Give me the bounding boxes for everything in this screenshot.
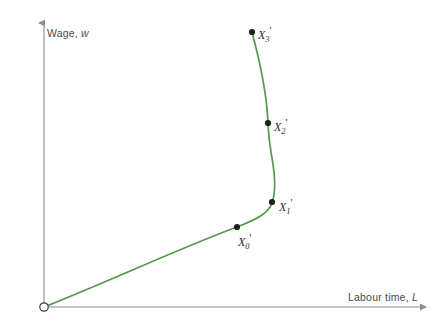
origin-marker [40,303,48,311]
point-label-x3-prime: ' [270,24,272,36]
data-point-x0 [234,224,240,230]
point-label-x2: X2' [274,116,288,136]
point-label-x0-prime: ' [250,231,252,243]
x-axis-label-variable: L [412,291,418,303]
point-label-x1: X1' [279,196,293,216]
chart-canvas [0,0,438,335]
point-label-x2-prime: ' [286,116,288,128]
y-axis-label: Wage, w [47,27,89,39]
x-axis-label-text: Labour time, [348,291,412,303]
y-axis-label-variable: w [81,27,89,39]
y-axis-label-text: Wage, [47,27,81,39]
data-point-x2 [265,120,271,126]
x-axis-label: Labour time, L [348,291,418,303]
data-point-x1 [269,199,275,205]
point-label-x0: X0' [238,231,252,251]
labour-supply-curve [44,32,275,307]
point-label-x3: X3' [258,24,272,44]
point-label-x1-prime: ' [291,196,293,208]
labour-supply-chart: Wage, w Labour time, L X3' X2' X1' X0' [0,0,438,335]
data-point-x3 [249,29,255,35]
